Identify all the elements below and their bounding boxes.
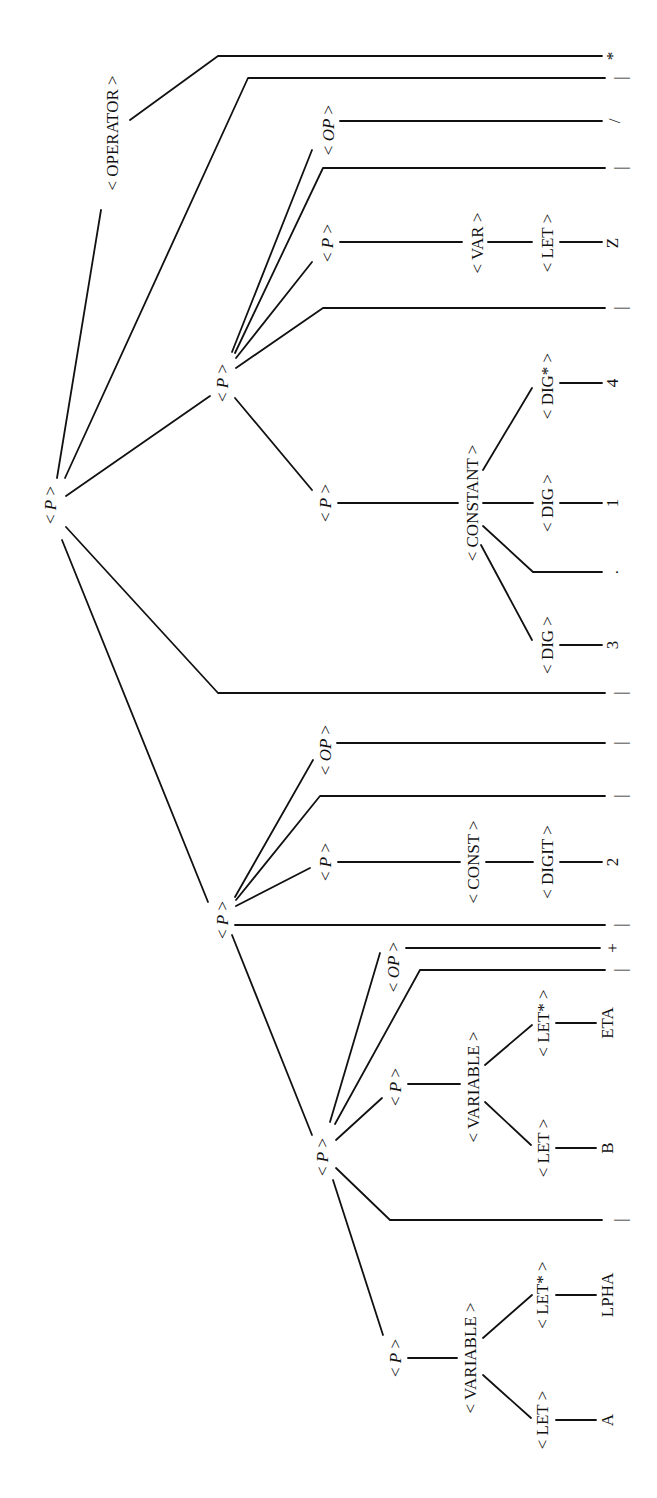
leaf-leaf-2: 2 — [603, 858, 622, 867]
edge-pupper-op — [232, 150, 312, 352]
node-operator: < OPERATOR > — [103, 75, 122, 190]
leaf-leaf-a: A — [598, 1413, 617, 1426]
node-digstar: < DIG* > — [538, 353, 557, 419]
leaf-leaf-star: * — [603, 52, 622, 61]
edge-constant-dig3 — [481, 545, 532, 640]
edge-plower-rparen — [336, 1168, 602, 1220]
node-variable-b: < VARIABLE > — [464, 1031, 483, 1142]
node-dig-1: < DIG > — [538, 474, 557, 532]
node-let-a: < LET > — [533, 1391, 552, 1450]
leaf-leaf-bar1: | — [611, 76, 630, 79]
node-p-a: < P > — [386, 1339, 405, 1377]
edge-plower-opplus — [330, 953, 380, 1122]
edge-root-lparen — [66, 527, 605, 693]
edge-variable-let-b — [485, 1102, 531, 1145]
leaf-leaf-4: 4 — [603, 378, 622, 387]
edge-operator-star — [130, 56, 602, 120]
edge-pmid-op — [235, 760, 313, 897]
node-let-b: < LET > — [534, 1119, 553, 1178]
leaf-leaf-bar5: | — [611, 741, 630, 744]
edge-constant-digstar — [483, 388, 532, 470]
edge-pmid-plower — [232, 935, 312, 1135]
leaf-leaf-lpha: LPHA — [598, 1272, 617, 1317]
edge-plower-pb — [336, 1098, 382, 1140]
node-p-mid: < P > — [213, 901, 232, 939]
edge-root-p-mid — [62, 540, 208, 902]
leaf-leaf-bar8: | — [611, 968, 630, 971]
node-constant: < CONSTANT > — [463, 445, 482, 562]
edge-variable-let-a — [483, 1375, 531, 1418]
edge-pupper-pconst — [235, 398, 312, 490]
node-variable-a: < VARIABLE > — [461, 1302, 480, 1413]
edge-plower-pa — [333, 1180, 383, 1335]
leaf-leaf-eta: ETA — [598, 1006, 617, 1038]
node-p-z: < P > — [318, 224, 337, 262]
node-op-plus: < OP > — [384, 942, 403, 992]
tree-nodes: < P >< OPERATOR >< P >< OP >< P >< VAR >… — [41, 75, 557, 1449]
edge-variable-letstar-a — [483, 1295, 532, 1338]
node-op-mid: < OP > — [316, 725, 335, 775]
leaf-leaf-bar6: | — [611, 794, 630, 797]
leaf-leaf-bar2: | — [611, 166, 630, 169]
leaf-leaf-1: 1 — [603, 499, 622, 508]
leaf-leaf-bar4: | — [611, 691, 630, 694]
node-p-b: < P > — [386, 1068, 405, 1106]
node-var-z: < VAR > — [468, 212, 487, 273]
node-letstar-a: < LET* > — [533, 1261, 552, 1328]
leaf-leaf-plus: + — [603, 943, 622, 953]
node-dig-3: < DIG > — [538, 616, 557, 674]
edge-variable-letstar-b — [485, 1025, 532, 1065]
node-p-lower: < P > — [313, 1138, 332, 1176]
leaf-leaf-3: 3 — [603, 641, 622, 650]
parse-tree-diagram: < P >< OPERATOR >< P >< OP >< P >< VAR >… — [0, 0, 657, 1498]
node-letstar-b: < LET* > — [534, 989, 553, 1056]
edge-root-p-upper — [66, 396, 210, 496]
edge-pupper-pz — [236, 262, 312, 358]
leaf-leaf-bar9: | — [611, 1218, 630, 1221]
node-p-const: < P > — [316, 484, 335, 522]
node-digit-2: < DIGIT > — [538, 825, 557, 899]
leaf-leaf-bar3: | — [611, 306, 630, 309]
node-const-2: < CONST > — [464, 820, 483, 903]
leaf-leaf-dot: . — [603, 570, 622, 574]
leaf-leaf-b: B — [598, 1142, 617, 1153]
node-p-2: < P > — [316, 843, 335, 881]
leaf-leaf-z: Z — [603, 238, 622, 248]
edge-root-operator — [57, 210, 101, 478]
node-let-z: < LET > — [538, 214, 557, 273]
node-root: < P > — [41, 486, 60, 524]
leaf-leaf-slash: / — [605, 118, 624, 123]
leaf-leaf-bar7: | — [611, 923, 630, 926]
node-op-div: < OP > — [319, 105, 338, 155]
node-p-upper: < P > — [213, 364, 232, 402]
